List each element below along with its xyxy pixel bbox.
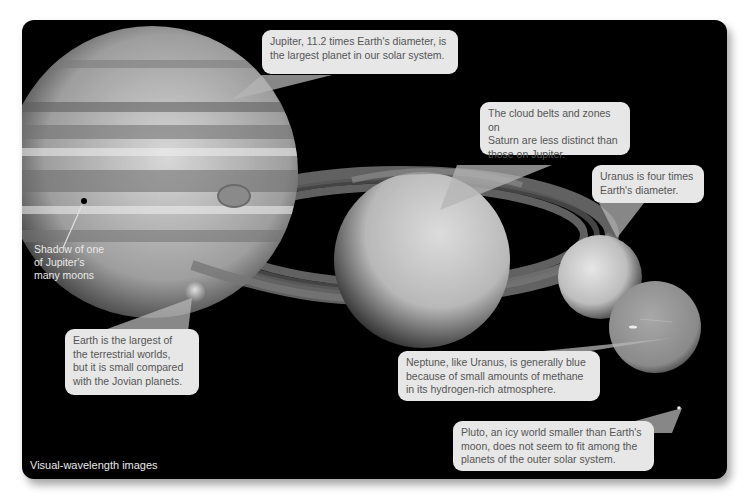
callout-line: with the Jovian planets. <box>73 375 191 389</box>
callout-line: but it is small compared <box>73 361 191 375</box>
callout-line: the largest planet in our solar system. <box>270 49 450 63</box>
jupiter-callout: Jupiter, 11.2 times Earth's diameter, is… <box>262 30 458 74</box>
pluto-callout: Pluto, an icy world smaller than Earth's… <box>453 421 654 471</box>
uranus-callout: Uranus is four times Earth's diameter. <box>592 165 704 203</box>
callout-line: because of small amounts of methane <box>406 370 592 384</box>
neptune-callout: Neptune, like Uranus, is generally blue … <box>398 351 600 401</box>
figure-panel: Jupiter, 11.2 times Earth's diameter, is… <box>22 20 727 479</box>
label-line: of Jupiter's <box>34 256 104 269</box>
callout-line: Saturn are less distinct than <box>488 134 622 148</box>
figure-caption: Visual-wavelength images <box>30 459 158 472</box>
earth-callout: Earth is the largest of the terrestrial … <box>65 329 199 395</box>
callout-line: Jupiter, 11.2 times Earth's diameter, is <box>270 35 450 49</box>
callout-line: Uranus is four times <box>600 170 696 184</box>
moon-shadow-label: Shadow of one of Jupiter's many moons <box>34 243 104 282</box>
moon-shadow-dot <box>81 198 87 204</box>
callout-line: the terrestrial worlds, <box>73 348 191 362</box>
callout-line: moon, does not seem to fit among the <box>461 440 646 454</box>
saturn <box>334 171 522 348</box>
callout-line: those on Jupiter. <box>488 148 622 162</box>
callout-line: Pluto, an icy world smaller than Earth's <box>461 426 646 440</box>
planets-illustration <box>22 20 727 479</box>
neptune <box>609 281 701 373</box>
callout-line: Neptune, like Uranus, is generally blue <box>406 356 592 370</box>
saturn-callout: The cloud belts and zones on Saturn are … <box>480 102 630 155</box>
label-line: many moons <box>34 269 104 282</box>
callout-line: Earth's diameter. <box>600 184 696 198</box>
callout-line: The cloud belts and zones on <box>488 107 622 134</box>
callout-line: in its hydrogen-rich atmosphere. <box>406 383 592 397</box>
label-line: Shadow of one <box>34 243 104 256</box>
callout-line: Earth is the largest of <box>73 334 191 348</box>
callout-line: planets of the outer solar system. <box>461 453 646 467</box>
